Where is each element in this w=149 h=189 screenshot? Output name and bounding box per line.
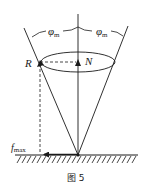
angle-arc-left <box>32 31 46 37</box>
angle-label-right: φm <box>96 25 108 39</box>
figure-caption: 图 5 <box>67 173 85 183</box>
friction-label: fmax <box>11 142 26 154</box>
contact-point <box>76 153 79 156</box>
ground-hatching <box>17 156 136 163</box>
cone-left-edge <box>24 28 78 155</box>
normal-label: N <box>84 55 93 67</box>
angle-arc-right-b <box>111 31 123 36</box>
reaction-label: R <box>24 57 32 69</box>
angle-label-left: φm <box>48 25 60 39</box>
angle-arc-left-b <box>63 27 78 31</box>
normal-force-arrowhead <box>75 59 81 66</box>
friction-cone-diagram: φm φm R N fmax 图 5 <box>0 0 149 189</box>
angle-arc-right <box>78 27 92 31</box>
cone-right-edge <box>78 26 128 155</box>
